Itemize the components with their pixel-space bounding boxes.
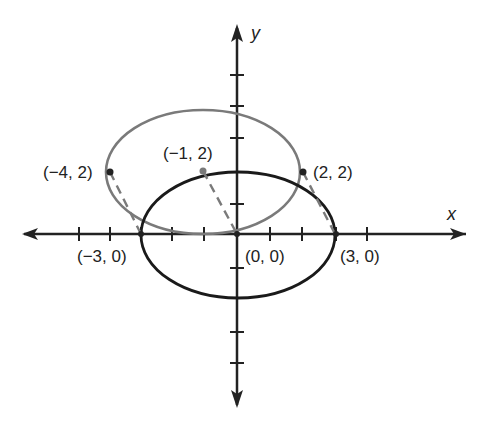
label-origin: (0, 0) — [245, 247, 285, 266]
point-neg3-0 — [138, 231, 144, 237]
point-origin — [234, 231, 240, 237]
dashed-segment-left — [110, 172, 141, 234]
point-neg4-2 — [107, 169, 114, 176]
x-axis-label: x — [446, 204, 457, 224]
coordinate-plane-diagram: x y (−4, 2) (−1 — [0, 0, 480, 424]
label-2-2: (2, 2) — [313, 163, 353, 182]
dashed-segment-center — [203, 171, 237, 234]
point-neg1-2 — [200, 168, 207, 175]
point-2-2 — [300, 169, 307, 176]
x-axis: x — [22, 204, 466, 241]
label-neg1-2: (−1, 2) — [163, 144, 213, 163]
label-neg3-0: (−3, 0) — [77, 247, 127, 266]
label-neg4-2: (−4, 2) — [43, 163, 93, 182]
point-labels: (−4, 2) (−1, 2) (2, 2) (−3, 0) (0, 0) (3… — [43, 144, 380, 266]
label-3-0: (3, 0) — [340, 247, 380, 266]
point-3-0 — [333, 231, 339, 237]
y-axis: y — [230, 23, 261, 408]
y-axis-label: y — [249, 23, 261, 43]
